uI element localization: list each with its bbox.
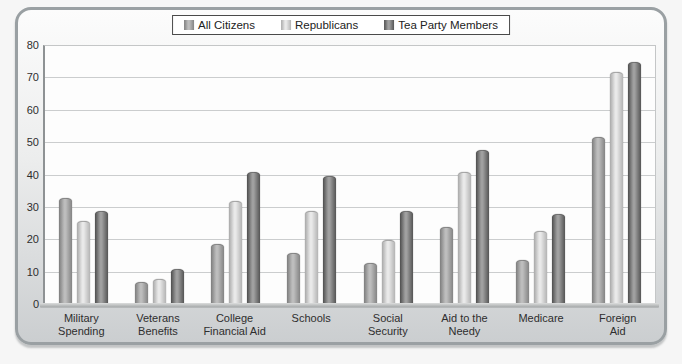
x-axis-labels: Military SpendingVeterans BenefitsColleg…	[43, 312, 656, 338]
bar-groups	[45, 46, 655, 305]
bar-tea-party-members	[628, 62, 641, 305]
y-axis-tick-label: 0	[17, 298, 39, 310]
x-axis-label: Military Spending	[43, 312, 120, 338]
bar-group	[579, 46, 655, 305]
all-citizens-swatch-icon	[184, 20, 194, 30]
bar-republicans	[458, 172, 471, 305]
bar-republicans	[305, 211, 318, 305]
bar-republicans	[534, 231, 547, 305]
legend: All Citizens Republicans Tea Party Membe…	[172, 15, 510, 35]
page: { "panel": { "background_top": "#fcfcfc"…	[0, 0, 682, 364]
x-axis-label: College Financial Aid	[196, 312, 273, 338]
bar-all-citizens	[364, 263, 377, 305]
bar-tea-party-members	[400, 211, 413, 305]
legend-item-republicans: Republicans	[281, 19, 358, 31]
y-axis-tick-label: 20	[17, 233, 39, 245]
bar-group	[198, 46, 274, 305]
x-axis-label: Veterans Benefits	[120, 312, 197, 338]
y-axis-tick-label: 50	[17, 136, 39, 148]
legend-label: All Citizens	[198, 19, 255, 31]
y-axis-tick-label: 10	[17, 266, 39, 278]
bar-tea-party-members	[476, 150, 489, 305]
bar-all-citizens	[592, 137, 605, 305]
x-axis-label: Schools	[273, 312, 350, 338]
bar-republicans	[610, 72, 623, 305]
bar-group	[45, 46, 121, 305]
bar-all-citizens	[59, 198, 72, 305]
x-axis-label: Social Security	[350, 312, 427, 338]
x-axis-base	[40, 303, 659, 308]
x-axis-label: Foreign Aid	[579, 312, 656, 338]
bar-group	[274, 46, 350, 305]
legend-item-all-citizens: All Citizens	[184, 19, 255, 31]
bar-tea-party-members	[95, 211, 108, 305]
bar-group	[121, 46, 197, 305]
legend-label: Tea Party Members	[398, 19, 498, 31]
bar-tea-party-members	[171, 269, 184, 305]
x-axis-label: Medicare	[503, 312, 580, 338]
bar-all-citizens	[135, 282, 148, 305]
bar-all-citizens	[440, 227, 453, 305]
bar-group	[503, 46, 579, 305]
bar-all-citizens	[287, 253, 300, 305]
legend-label: Republicans	[295, 19, 358, 31]
bar-all-citizens	[211, 244, 224, 306]
bar-tea-party-members	[247, 172, 260, 305]
republicans-swatch-icon	[281, 20, 291, 30]
bar-group	[426, 46, 502, 305]
y-axis-tick-label: 30	[17, 201, 39, 213]
legend-item-tea-party: Tea Party Members	[384, 19, 498, 31]
chart-panel: All Citizens Republicans Tea Party Membe…	[15, 7, 667, 345]
bar-republicans	[77, 221, 90, 305]
bar-tea-party-members	[552, 214, 565, 305]
bar-republicans	[382, 240, 395, 305]
bar-republicans	[229, 201, 242, 305]
y-axis-tick-label: 60	[17, 104, 39, 116]
y-axis-tick-label: 40	[17, 169, 39, 181]
plot-area	[43, 45, 656, 306]
y-axis-tick-label: 70	[17, 71, 39, 83]
x-axis-label: Aid to the Needy	[426, 312, 503, 338]
tea-party-swatch-icon	[384, 20, 394, 30]
y-axis-tick-label: 80	[17, 39, 39, 51]
bar-tea-party-members	[323, 176, 336, 306]
bar-group	[350, 46, 426, 305]
bar-all-citizens	[516, 260, 529, 305]
bar-republicans	[153, 279, 166, 305]
